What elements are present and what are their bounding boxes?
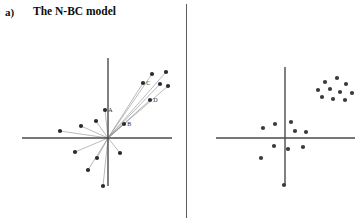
plot-b-point-14 (304, 130, 308, 134)
scatter-plots-canvas: CDAB (0, 0, 360, 224)
plot-b-point-9 (350, 91, 354, 95)
plot-b-point-1 (335, 76, 339, 80)
plot-a-point-13 (118, 151, 122, 155)
plot-b-point-12 (289, 120, 293, 124)
plot-a-ray-13 (108, 138, 120, 153)
plot-a-point-12 (95, 156, 99, 160)
plot-a-point-1 (164, 70, 168, 74)
plot-b-point-16 (286, 147, 290, 151)
plot-a-point-6 (103, 108, 107, 112)
plot-a-point-5 (148, 98, 152, 102)
plot-b-graphics (216, 67, 355, 187)
plot-a-point-0 (150, 72, 154, 76)
plot-a-point-14 (86, 168, 90, 172)
plot-a-graphics: CDAB (22, 58, 172, 188)
plot-a-point-3 (158, 82, 162, 86)
plot-a-ray-2 (108, 83, 143, 138)
plot-b-point-17 (301, 145, 305, 149)
plot-a-point-label-D: D (153, 97, 158, 103)
plot-b-point-5 (338, 90, 342, 94)
plot-a-ray-1 (108, 72, 166, 138)
plot-a-point-label-C: C (146, 80, 150, 86)
plot-b-point-7 (331, 97, 335, 101)
plot-b-point-0 (323, 80, 327, 84)
plot-a-point-11 (73, 150, 77, 154)
plot-b-point-6 (320, 95, 324, 99)
plot-a-point-label-A: A (108, 107, 113, 113)
plot-b-point-8 (343, 98, 347, 102)
plot-b-point-11 (273, 122, 277, 126)
plot-a-point-2 (141, 81, 145, 85)
plot-b-point-19 (282, 183, 286, 187)
plot-b-point-3 (316, 88, 320, 92)
plot-a-point-4 (166, 84, 170, 88)
plot-a-point-9 (79, 124, 83, 128)
plot-b-point-15 (272, 144, 276, 148)
plot-b-point-2 (344, 82, 348, 86)
plot-a-point-7 (122, 122, 126, 126)
plot-a-point-10 (58, 129, 62, 133)
plot-b-point-10 (261, 126, 265, 130)
plot-a-point-8 (94, 119, 98, 123)
plot-a-ray-3 (108, 84, 160, 138)
plot-a-point-label-B: B (127, 121, 131, 127)
plot-a-ray-11 (75, 138, 108, 152)
plot-b-point-4 (328, 87, 332, 91)
plot-b-point-13 (293, 129, 297, 133)
figure-root: a) The N-BC model b) The PE-B model CDAB (0, 0, 360, 224)
plot-b-point-18 (259, 156, 263, 160)
plot-a-point-15 (101, 184, 105, 188)
